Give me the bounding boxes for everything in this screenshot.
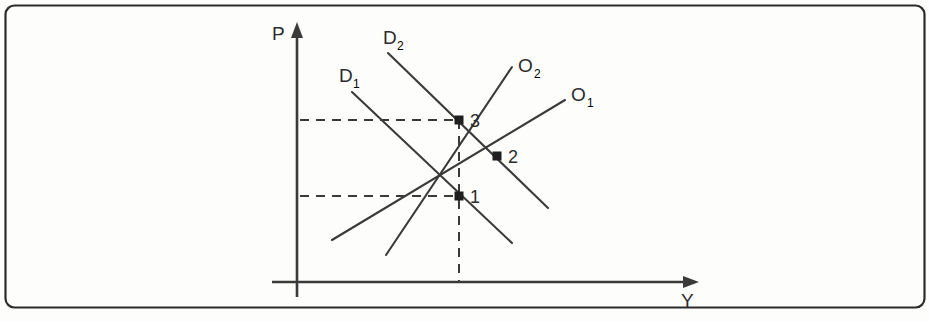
supply-curve-1-label-subscript: 1 (587, 96, 594, 110)
diagram-canvas: P Y D 1 D 2 O 1 O 2 1 2 3 (0, 0, 930, 321)
supply-curve-2 (386, 67, 512, 255)
demand-curve-1 (352, 92, 512, 243)
supply-curve-1-label: O (571, 84, 586, 105)
labels-group: P Y D 1 D 2 O 1 O 2 1 2 3 (272, 23, 694, 311)
economics-diagram-figure: P Y D 1 D 2 O 1 O 2 1 2 3 (0, 0, 930, 321)
demand-curve-2-label-subscript: 2 (397, 39, 404, 53)
demand-curve-2-label: D (383, 27, 397, 48)
demand-curve-2 (388, 53, 548, 208)
equilibrium-point-3-label: 3 (470, 111, 480, 131)
demand-curve-1-label-subscript: 1 (353, 77, 360, 91)
supply-curve-2-label: O (518, 55, 533, 76)
equilibrium-point-2-marker (493, 152, 502, 161)
vertical-axis-arrowhead (291, 22, 303, 38)
figure-border (6, 6, 925, 308)
equilibrium-point-2-label: 2 (508, 147, 518, 167)
equilibrium-point-3-marker (455, 116, 464, 125)
guide-lines-group (300, 120, 459, 282)
axes-group (272, 22, 699, 297)
horizontal-axis-arrowhead (683, 276, 699, 288)
axis-label-p: P (272, 23, 285, 44)
curves-group (332, 53, 565, 255)
demand-curve-1-label: D (339, 65, 353, 86)
equilibrium-point-1-marker (455, 192, 464, 201)
axis-label-y: Y (681, 290, 694, 311)
equilibrium-point-1-label: 1 (470, 187, 480, 207)
supply-curve-2-label-subscript: 2 (534, 67, 541, 81)
